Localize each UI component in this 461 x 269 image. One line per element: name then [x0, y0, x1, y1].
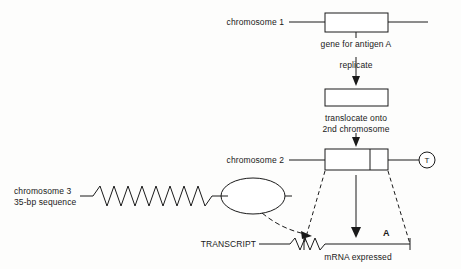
- curved-dashed-arrow-head: [301, 231, 312, 239]
- label-telomere-marker: T: [419, 155, 435, 166]
- label-translocate-line2: 2nd chromosome: [296, 124, 416, 135]
- label-chromosome3-line2: 35-bp sequence: [14, 197, 104, 208]
- label-mrna-expressed: mRNA expressed: [300, 252, 416, 263]
- label-chromosome2: chromosome 2: [196, 155, 284, 166]
- translocate-arrow-head: [352, 137, 360, 147]
- transcript-zigzag-icon: [290, 238, 325, 250]
- gene-box-chromosome2: [325, 149, 388, 170]
- label-chromosome1: chromosome 1: [196, 17, 284, 28]
- projection-line-right: [388, 171, 410, 244]
- gene-box-chromosome1: [325, 13, 388, 32]
- zigzag-sequence-icon: [93, 186, 212, 206]
- replicate-arrow-head: [352, 76, 360, 86]
- curved-dashed-arrow-icon: [262, 213, 305, 234]
- diagram-canvas: chromosome 1 gene for antigen A replicat…: [0, 0, 461, 269]
- expression-arrow-head: [351, 227, 361, 238]
- label-translocate-line1: translocate onto: [296, 113, 416, 124]
- ellipse-loop-icon: [221, 178, 285, 214]
- label-transcript: TRANSCRIPT: [172, 239, 256, 250]
- projection-line-left: [304, 171, 325, 244]
- label-gene-for-antigen-a: gene for antigen A: [296, 39, 416, 50]
- gene-box-replicated: [325, 89, 388, 106]
- label-replicate: replicate: [316, 60, 396, 71]
- label-chromosome3-line1: chromosome 3: [14, 186, 84, 197]
- label-antigen-a-marker: A: [383, 228, 390, 239]
